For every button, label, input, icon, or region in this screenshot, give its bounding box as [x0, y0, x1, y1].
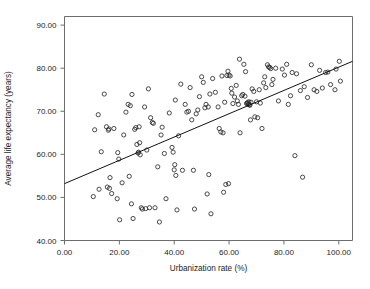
data-point [220, 74, 224, 78]
data-point [263, 75, 267, 79]
data-point [102, 92, 106, 96]
data-point [216, 105, 220, 109]
data-point [91, 194, 95, 198]
data-point [232, 95, 236, 99]
x-axis-title: Urbanization rate (%) [170, 264, 248, 273]
data-point [146, 87, 150, 91]
y-axis-title: Average life expectancy (years) [4, 71, 13, 186]
data-point [293, 154, 297, 158]
data-point [234, 83, 238, 87]
data-point [149, 116, 153, 120]
data-point [211, 76, 215, 80]
y-tick-label: 80.00 [36, 64, 57, 73]
x-tick-label: 40.00 [164, 248, 185, 257]
x-axis-ticks [65, 241, 339, 245]
data-point [151, 121, 155, 125]
data-point [164, 197, 168, 201]
data-point [286, 102, 290, 106]
data-point [205, 192, 209, 196]
data-point [127, 174, 131, 178]
data-point [229, 86, 233, 90]
data-point [162, 151, 166, 155]
data-point [270, 82, 274, 86]
data-point [226, 182, 230, 186]
data-point [223, 100, 227, 104]
data-point [124, 110, 128, 114]
y-axis-ticks [61, 25, 65, 240]
data-point [173, 98, 177, 102]
data-point [243, 70, 247, 74]
data-point [242, 62, 246, 66]
data-point [271, 77, 275, 81]
x-axis-tick-labels: 0.0020.0040.0060.0080.00100.00 [57, 248, 352, 257]
data-point [192, 207, 196, 211]
data-point [159, 133, 163, 137]
y-tick-label: 90.00 [36, 21, 57, 30]
data-point [110, 191, 114, 195]
data-point [256, 116, 260, 120]
plot-canvas: 0.0020.0040.0060.0080.00100.00 40.0050.0… [0, 0, 370, 289]
data-point [183, 102, 187, 106]
data-point [231, 101, 235, 105]
data-point [333, 88, 337, 92]
data-point [200, 75, 204, 79]
data-point [172, 168, 176, 172]
data-point [108, 176, 112, 180]
data-point [337, 59, 341, 63]
data-point [197, 95, 201, 99]
data-point [282, 73, 286, 77]
data-point [191, 168, 195, 172]
data-point [230, 91, 234, 95]
data-point [207, 172, 211, 176]
y-axis-tick-labels: 40.0050.0060.0070.0080.0090.00 [36, 21, 57, 245]
data-point [93, 128, 97, 132]
data-point [156, 165, 160, 169]
data-point [130, 92, 134, 96]
x-tick-label: 20.00 [109, 248, 130, 257]
data-point [262, 81, 266, 85]
data-point [276, 99, 280, 103]
data-point [285, 62, 289, 66]
data-point [257, 88, 261, 92]
data-point [208, 92, 212, 96]
data-point [142, 105, 146, 109]
data-point [290, 70, 294, 74]
data-point [115, 197, 119, 201]
data-point [167, 111, 171, 115]
data-point [237, 57, 241, 61]
data-point [171, 150, 175, 154]
data-point [274, 66, 278, 70]
data-point [317, 68, 321, 72]
y-tick-label: 60.00 [36, 150, 57, 159]
data-point [131, 216, 135, 220]
data-point [174, 173, 178, 177]
data-point [201, 80, 205, 84]
data-point [238, 131, 242, 135]
data-point [153, 206, 157, 210]
data-point [298, 88, 302, 92]
data-point [264, 85, 268, 89]
data-point [170, 145, 174, 149]
data-point [294, 72, 298, 76]
data-point [328, 82, 332, 86]
data-point [118, 218, 122, 222]
x-tick-label: 60.00 [219, 248, 240, 257]
data-point [221, 190, 225, 194]
data-point [302, 85, 306, 89]
data-point [248, 118, 252, 122]
data-point [320, 86, 324, 90]
data-point [175, 208, 179, 212]
data-point [300, 175, 304, 179]
data-point [96, 113, 100, 117]
data-point [160, 125, 164, 129]
data-point [224, 182, 228, 186]
data-point [338, 79, 342, 83]
data-point [305, 95, 309, 99]
y-tick-label: 70.00 [36, 107, 57, 116]
data-point [120, 181, 124, 185]
data-point [116, 151, 120, 155]
data-point [97, 187, 101, 191]
data-point [309, 63, 313, 67]
data-point [157, 220, 161, 224]
regression-line [65, 61, 353, 183]
